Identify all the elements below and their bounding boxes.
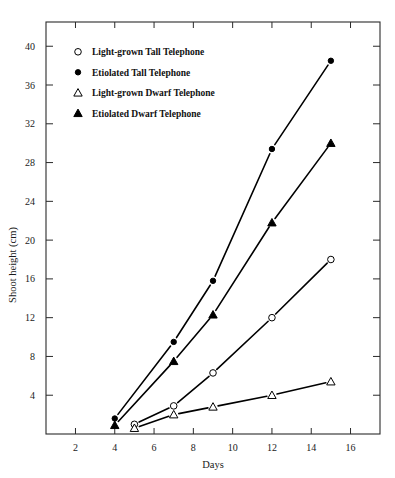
y-tick-label: 16 <box>25 273 35 284</box>
shoot-height-line-chart: 481216202428323640 246810121416 Light-gr… <box>0 0 395 478</box>
legend-entry: Light-grown Dwarf Telephone <box>74 88 215 98</box>
y-tick-label: 28 <box>25 157 35 168</box>
legend-label: Light-grown Dwarf Telephone <box>92 88 215 98</box>
legend-entry: Etiolated Tall Telephone <box>75 68 190 78</box>
data-point-open-circle <box>269 314 276 321</box>
x-tick-label: 6 <box>152 442 157 453</box>
y-tick-label: 4 <box>30 390 35 401</box>
x-tick-label: 10 <box>228 442 238 453</box>
x-tick-label: 14 <box>306 442 316 453</box>
chart-figure: 481216202428323640 246810121416 Light-gr… <box>0 0 395 478</box>
legend-label: Etiolated Tall Telephone <box>92 68 190 78</box>
x-tick-label: 2 <box>73 442 78 453</box>
data-point-filled-circle <box>75 70 80 75</box>
x-tick-label: 8 <box>191 442 196 453</box>
chart-background <box>0 0 395 478</box>
data-point-filled-circle <box>269 146 274 151</box>
y-tick-label: 32 <box>25 118 35 129</box>
x-tick-label: 4 <box>112 442 117 453</box>
y-tick-label: 20 <box>25 235 35 246</box>
data-point-open-circle <box>170 403 177 410</box>
y-tick-label: 24 <box>25 196 35 207</box>
data-point-filled-circle <box>210 278 215 283</box>
legend-entry: Etiolated Dwarf Telephone <box>74 109 201 119</box>
x-tick-label: 12 <box>267 442 277 453</box>
data-point-open-circle <box>210 370 217 377</box>
legend-label: Light-grown Tall Telephone <box>92 47 204 57</box>
x-tick-label: 16 <box>346 442 356 453</box>
data-point-open-circle <box>75 49 82 56</box>
data-point-filled-circle <box>328 58 333 63</box>
data-point-filled-circle <box>171 339 176 344</box>
y-axis-title: Shoot height (cm) <box>7 227 19 303</box>
y-tick-label: 12 <box>25 312 35 323</box>
y-tick-label: 36 <box>25 80 35 91</box>
legend-label: Etiolated Dwarf Telephone <box>92 109 201 119</box>
data-point-open-circle <box>328 256 335 263</box>
x-axis-title: Days <box>202 459 224 470</box>
y-tick-label: 40 <box>25 41 35 52</box>
legend-entry: Light-grown Tall Telephone <box>75 47 205 57</box>
y-tick-label: 8 <box>30 351 35 362</box>
